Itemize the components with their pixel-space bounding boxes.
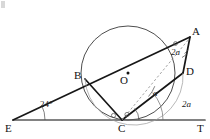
point-label-C: C <box>118 123 125 134</box>
angle-marker-BCE <box>111 113 115 117</box>
angle-label-C-2a: 2a <box>182 100 191 109</box>
angle-label-C-a: a <box>153 89 158 98</box>
point-label-D: D <box>186 66 194 77</box>
angle-label-E-24deg: 24° <box>40 100 53 109</box>
lower-arc-B-to-D <box>85 73 183 125</box>
geometry-canvas <box>0 0 210 139</box>
angle-label-A-2a: 2a <box>171 48 180 57</box>
point-label-O: O <box>120 75 128 86</box>
point-label-T: T <box>197 123 204 134</box>
point-label-E: E <box>5 123 12 134</box>
point-label-B: B <box>74 70 81 81</box>
geometry-figure: A B C D E O T 24° 2a a 2a <box>0 0 210 139</box>
point-label-A: A <box>192 26 200 37</box>
